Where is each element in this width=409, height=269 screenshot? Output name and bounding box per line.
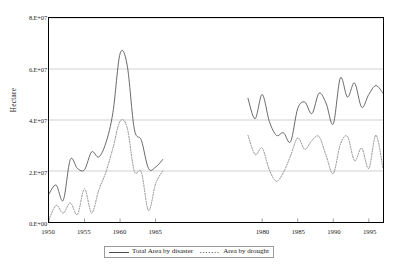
series-line-total-area-by-disaster xyxy=(49,50,163,201)
series-line-total-area-by-disaster xyxy=(248,77,383,142)
x-tick-label: 1990 xyxy=(327,228,341,235)
y-tick-label: 2.E+07 xyxy=(3,168,47,175)
x-tick-label: 1955 xyxy=(77,228,91,235)
series-line-area-by-drought xyxy=(248,135,383,181)
plot-canvas xyxy=(49,18,383,222)
x-tick-label: 1960 xyxy=(113,228,127,235)
chart-legend: Total Area by disaster Area by drought xyxy=(104,246,274,258)
y-tick-label: 4.E+07 xyxy=(3,117,47,124)
x-axis-tick-labels: 19501955196019651980198519901995 xyxy=(0,228,409,242)
x-tick-label: 1980 xyxy=(256,228,270,235)
x-tick-label: 1985 xyxy=(291,228,305,235)
series-line-area-by-drought xyxy=(49,120,163,220)
legend-swatch-dotted-line xyxy=(200,249,220,254)
legend-swatch-solid-line xyxy=(109,249,129,254)
x-tick-label: 1950 xyxy=(41,228,55,235)
y-tick-label: 6.E+07 xyxy=(3,65,47,72)
line-chart: Hectare 0.E+002.E+074.E+076.E+078.E+07 1… xyxy=(0,0,409,269)
legend-label: Area by drought xyxy=(223,248,269,255)
legend-item-total-area-by-disaster: Total Area by disaster xyxy=(109,248,193,255)
legend-label: Total Area by disaster xyxy=(132,248,193,255)
legend-item-area-by-drought: Area by drought xyxy=(200,248,269,255)
plot-area xyxy=(48,17,384,223)
x-tick-label: 1965 xyxy=(148,228,162,235)
x-tick-label: 1995 xyxy=(363,228,377,235)
y-tick-label: 8.E+07 xyxy=(3,14,47,21)
y-tick-label: 0.E+00 xyxy=(3,220,47,227)
